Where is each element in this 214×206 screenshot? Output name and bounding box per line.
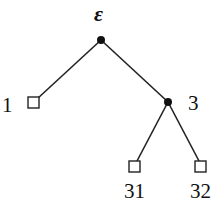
root-node-dot [97, 36, 105, 44]
node-31-label: 31 [124, 181, 145, 202]
edge-root-3 [101, 40, 168, 102]
node-32-label: 32 [190, 181, 211, 202]
tree-edges [37, 40, 199, 161]
root-label: ε [94, 3, 103, 25]
node-3-label: 3 [188, 93, 199, 114]
node-3-dot [164, 98, 172, 106]
edge-root-1 [37, 40, 101, 99]
leaf-32-square [195, 161, 206, 172]
leaf-1-square [28, 97, 39, 108]
leaf-31-square [129, 161, 140, 172]
node-1-label: 1 [2, 95, 13, 116]
edge-3-31 [137, 102, 168, 161]
tree-diagram [0, 0, 214, 206]
